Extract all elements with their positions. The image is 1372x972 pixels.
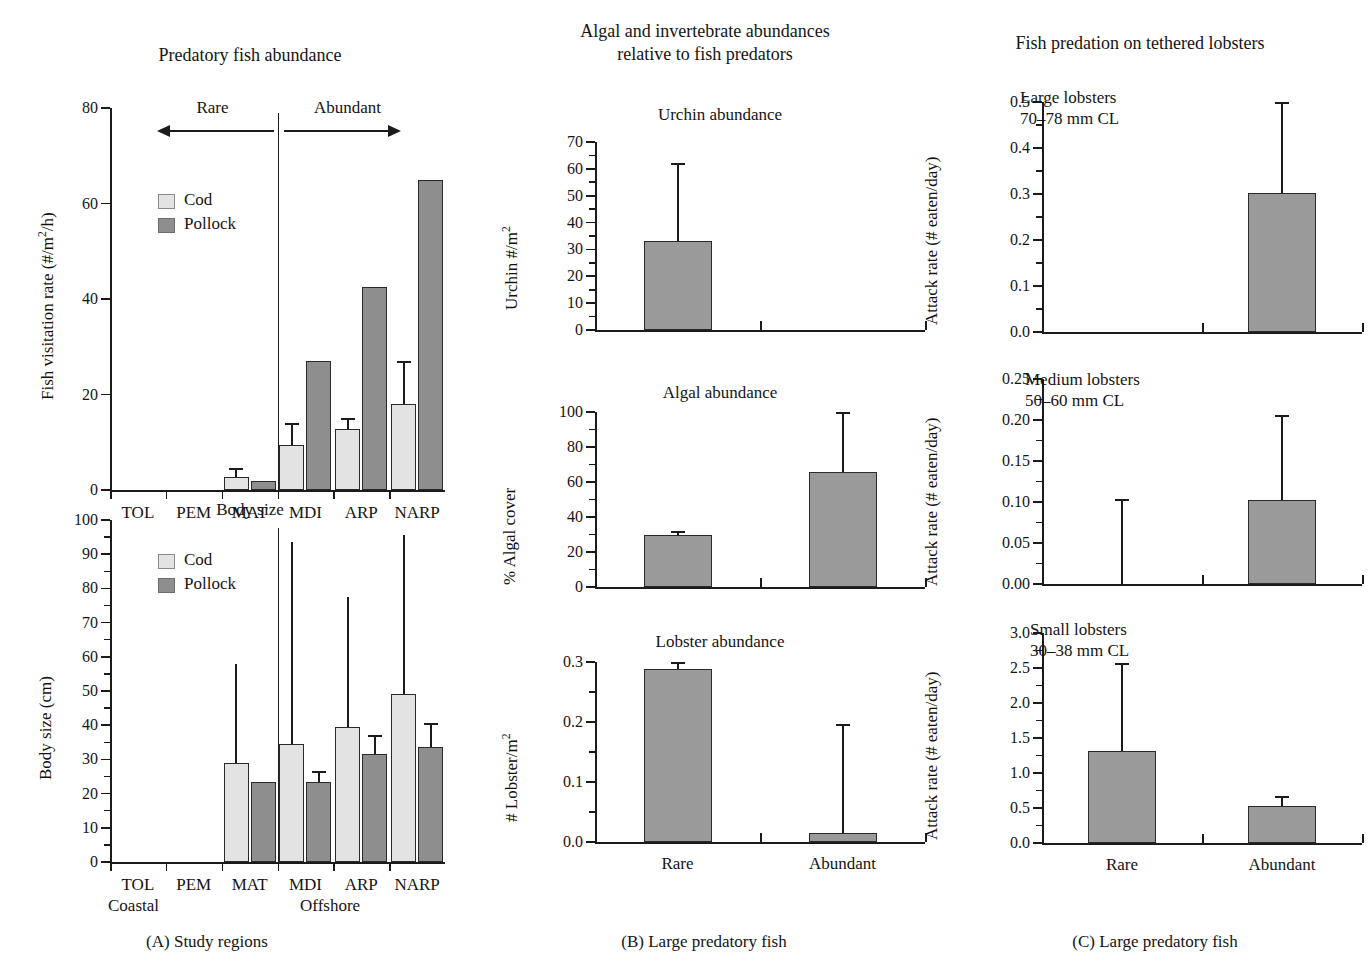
errorbar-rare-cap (671, 662, 685, 664)
errorbar-rare-stem (1121, 663, 1123, 751)
y-tick-major (586, 721, 595, 723)
bar-abundant (1248, 193, 1316, 332)
y-tick-minor (589, 155, 595, 157)
y-tick-major (1033, 542, 1042, 544)
y-tick-minor (589, 534, 595, 536)
y-tick-label: 0.4 (962, 140, 1030, 156)
x-tick (222, 862, 224, 871)
bar-pollock-NARP (418, 747, 443, 862)
y-tick-minor (589, 569, 595, 571)
a1-ylabel: Fish visitation rate (#/m2/h) (36, 400, 224, 422)
chart-algal-abundance: 020406080100 (480, 390, 930, 610)
y-tick-label: 40 (515, 509, 583, 525)
y-tick-label: 0.1 (962, 278, 1030, 294)
y-tick-minor (589, 208, 595, 210)
y-tick-minor (1036, 481, 1042, 483)
y-tick-minor (589, 181, 595, 183)
y-tick-minor (589, 316, 595, 318)
b2-title: Algal abundance (580, 383, 860, 403)
x-tick (1362, 575, 1364, 584)
y-tick-major (586, 781, 595, 783)
y-tick-minor (1036, 755, 1042, 757)
y-tick-major (1033, 583, 1042, 585)
y-tick-label: 70 (30, 615, 98, 631)
y-tick-minor (104, 605, 110, 607)
bar-pollock-ARP (362, 754, 387, 862)
errorbar-abundant-cap (1275, 102, 1289, 104)
y-tick-minor (1036, 685, 1042, 687)
x-tick (389, 490, 391, 499)
y-tick-label: 0.2 (515, 714, 583, 730)
y-tick-major (1033, 239, 1042, 241)
x-tick (760, 321, 762, 330)
bar-cod-ARP (335, 727, 360, 862)
errorbar-pollock-MDI-cap (312, 771, 326, 773)
y-tick-minor (589, 262, 595, 264)
y-tick-minor (1036, 216, 1042, 218)
x-tick (1362, 323, 1364, 332)
c3-note: Small lobsters 30–38 mm CL (1030, 620, 1129, 661)
y-tick-major (586, 168, 595, 170)
errorbar-cod-MAT-stem (235, 664, 237, 763)
y-tick-minor (589, 429, 595, 431)
y-tick-minor (589, 235, 595, 237)
c2-note: Medium lobsters 50–60 mm CL (1025, 370, 1140, 411)
y-tick-minor (104, 776, 110, 778)
y-tick-major (586, 275, 595, 277)
rare-abundant-divider (278, 528, 280, 863)
arrow-left-icon (157, 125, 170, 137)
y-tick-major (1033, 193, 1042, 195)
y-tick-label: 60 (515, 474, 583, 490)
y-tick-label: 0.3 (515, 654, 583, 670)
bar-cod-MAT (224, 477, 249, 490)
legend-swatch-cod (158, 194, 175, 209)
y-tick-minor (1036, 720, 1042, 722)
b3-title: Lobster abundance (580, 632, 860, 652)
y-tick-label: 80 (30, 100, 98, 116)
y-tick-major (586, 302, 595, 304)
x-cat-label-rare: Rare (618, 854, 738, 874)
y-tick-label: 90 (30, 546, 98, 562)
errorbar-cod-NARP-cap (397, 361, 411, 363)
arrow-right-icon (388, 125, 401, 137)
x-tick (389, 862, 391, 871)
y-tick-label: 100 (515, 404, 583, 420)
y-tick-minor (1036, 262, 1042, 264)
bar-pollock-MAT (251, 782, 276, 862)
y-tick-major (101, 827, 110, 829)
y-tick-label: 30 (515, 241, 583, 257)
errorbar-rare-cap (1115, 499, 1129, 501)
y-tick-minor (589, 691, 595, 693)
y-tick-minor (1036, 563, 1042, 565)
errorbar-abundant-stem (1281, 415, 1283, 499)
y-tick-major (586, 195, 595, 197)
panel-a-column-title: Predatory fish abundance (60, 44, 440, 67)
x-tick (166, 490, 168, 499)
y-tick-major (101, 861, 110, 863)
y-tick-major (586, 249, 595, 251)
errorbar-pollock-NARP-stem (430, 723, 432, 747)
y-axis-line (1042, 102, 1044, 333)
y-tick-major (586, 481, 595, 483)
errorbar-abundant-cap (1275, 796, 1289, 798)
y-tick-label: 0.1 (515, 774, 583, 790)
panel-a-caption: (A) Study regions (146, 932, 268, 952)
x-tick (1202, 323, 1204, 332)
chart-body-size: 0102030405060708090100TOLPEMMATMDIARPNAR… (0, 500, 470, 900)
x-cat-label-NARP: NARP (357, 875, 477, 895)
y-axis-line (110, 520, 112, 863)
bar-abundant (809, 472, 877, 588)
y-axis-line (110, 108, 112, 491)
y-tick-label: 3.0 (962, 625, 1030, 641)
y-tick-minor (1036, 790, 1042, 792)
errorbar-cod-MAT-cap (229, 468, 243, 470)
chart-medium-lobsters: 0.000.050.100.150.200.25 (930, 365, 1370, 605)
y-tick-major (101, 394, 110, 396)
legend-label-cod: Cod (184, 190, 212, 210)
y-tick-label: 0.10 (962, 494, 1030, 510)
errorbar-abundant-stem (842, 724, 844, 833)
y-tick-major (101, 759, 110, 761)
bar-rare (1088, 751, 1156, 843)
errorbar-rare-cap (1115, 663, 1129, 665)
y-tick-label: 0.5 (962, 800, 1030, 816)
